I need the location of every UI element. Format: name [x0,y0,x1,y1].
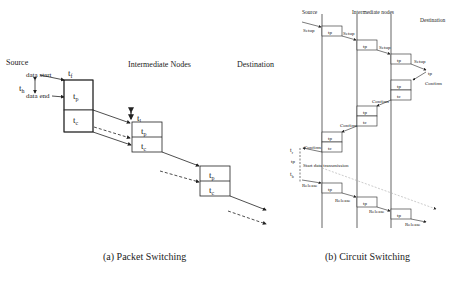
svg-text:Release: Release [302,183,318,188]
svg-text:tp: tp [428,71,432,76]
svg-text:Release: Release [335,198,351,203]
svg-text:Confirm: Confirm [425,81,442,86]
svg-text:Confirm: Confirm [304,145,321,150]
packet-caption: (a) Packet Switching [103,251,186,263]
tb-label: tb [290,171,294,179]
svg-text:Release: Release [405,222,421,227]
circuit-caption: (b) Circuit Switching [325,251,410,263]
packet-box-source: tp tc [64,80,93,132]
circuit-switching-diagram: Source Intermediate nodes Destination Se… [290,9,446,263]
svg-text:Setup: Setup [303,28,315,33]
packet-intermediate-label: Intermediate Nodes [128,60,191,69]
packet-switching-diagram: Source Intermediate Nodes Destination da… [6,58,274,263]
svg-text:tp: tp [397,84,401,89]
tf-label: tf [68,68,73,79]
svg-text:tp: tp [328,136,332,141]
data-start-label: data start [26,71,52,79]
svg-text:tp: tp [328,187,332,192]
svg-text:tp: tp [363,110,367,115]
circuit-destination-label: Destination [420,17,446,23]
svg-text:tp: tp [328,30,332,35]
svg-text:Confirm: Confirm [340,123,357,128]
circuit-source-label: Source [302,9,318,15]
circuit-intermediate-label: Intermediate nodes [352,9,394,15]
packet-source-label: Source [6,58,29,67]
svg-text:Release: Release [369,209,385,214]
svg-text:tp: tp [363,201,367,206]
svg-text:tp: tp [397,213,401,218]
start-data-label: Start data transmission [303,163,349,168]
tp-left-label: tp [291,159,295,164]
packet-destination-label: Destination [237,60,274,69]
packet-box-destination: tp tc [200,166,230,196]
switching-diagram: Source Intermediate Nodes Destination da… [0,0,460,282]
svg-text:Confirm: Confirm [372,99,389,104]
svg-text:Setup: Setup [414,59,426,64]
svg-text:tp: tp [363,44,367,49]
packet-box-intermediate: tp tc [132,122,162,152]
svg-text:Setup: Setup [343,31,355,36]
data-end-label: data end [26,92,50,100]
th-label: th [19,83,25,94]
tr-label: tr [290,147,294,155]
svg-text:tp: tp [397,58,401,63]
svg-text:Setup: Setup [379,45,391,50]
